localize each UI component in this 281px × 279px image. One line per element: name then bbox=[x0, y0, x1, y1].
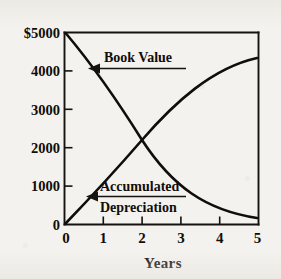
y-label-5000: $5000 bbox=[24, 25, 60, 41]
y-label-1000: 1000 bbox=[31, 178, 60, 194]
y-axis-ticks bbox=[65, 71, 73, 186]
annotation-depreciation-label: Depreciation bbox=[100, 200, 177, 215]
annotation-book-value-label: Book Value bbox=[104, 50, 172, 65]
x-label-3: 3 bbox=[177, 230, 185, 246]
x-label-0: 0 bbox=[62, 230, 70, 246]
y-label-4000: 4000 bbox=[31, 63, 60, 79]
x-label-5: 5 bbox=[254, 230, 262, 246]
annotation-book-value: Book Value bbox=[88, 50, 186, 74]
annotation-accumulated-label: Accumulated bbox=[100, 179, 180, 194]
x-label-2: 2 bbox=[138, 230, 146, 246]
y-label-3000: 3000 bbox=[31, 102, 60, 118]
y-axis-tick-labels: $5000 4000 3000 2000 1000 0 bbox=[24, 25, 60, 233]
depreciation-chart: $5000 4000 3000 2000 1000 0 0 1 2 3 4 5 … bbox=[0, 0, 281, 279]
annotation-accumulated-depreciation: Accumulated Depreciation bbox=[86, 179, 186, 215]
y-label-0: 0 bbox=[53, 217, 60, 233]
x-label-1: 1 bbox=[100, 230, 108, 246]
x-label-4: 4 bbox=[216, 230, 224, 246]
x-axis-tick-labels: 0 1 2 3 4 5 bbox=[62, 230, 261, 246]
x-axis-title: Years bbox=[144, 255, 182, 271]
chart-figure: $5000 4000 3000 2000 1000 0 0 1 2 3 4 5 … bbox=[0, 0, 281, 279]
y-label-2000: 2000 bbox=[31, 140, 60, 156]
x-axis-ticks bbox=[103, 217, 219, 225]
